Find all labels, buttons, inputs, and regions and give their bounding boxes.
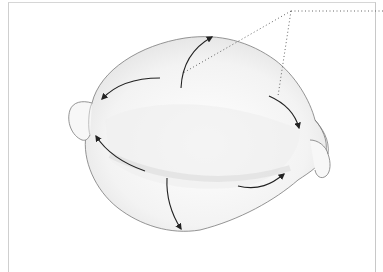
lemon-body [69, 37, 330, 232]
